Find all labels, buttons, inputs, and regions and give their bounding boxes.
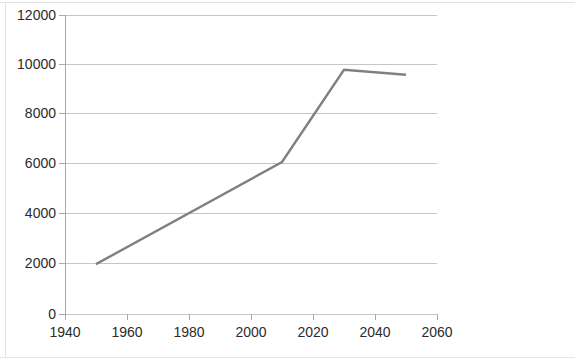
line-chart: 12000 10000 8000 6000 4000 2000 0 1940 1… xyxy=(0,0,575,361)
series-plot-layer xyxy=(0,0,575,361)
series-line-1 xyxy=(96,70,406,264)
chart-page: 12000 10000 8000 6000 4000 2000 0 1940 1… xyxy=(0,0,575,361)
